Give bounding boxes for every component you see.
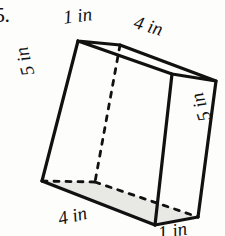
rectangular-prism-figure <box>0 0 225 236</box>
edge-top-face <box>78 41 216 81</box>
hidden-edge-back-vertical <box>95 45 120 182</box>
dimension-label-top-left: 1 in <box>62 4 93 26</box>
figure-page: 5. 1 in 4 in 5 in 5 in 4 in <box>0 0 225 236</box>
edge-front-left-vertical <box>42 41 78 181</box>
dimension-label-bottom-right: 1 in <box>157 219 189 236</box>
